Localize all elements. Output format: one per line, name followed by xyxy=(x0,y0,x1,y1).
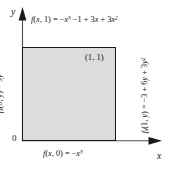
boundary-label-left: fx(0, y) = 3y2 xyxy=(0,72,4,114)
y-axis-arrowhead-icon xyxy=(19,7,27,21)
origin-label: 0 xyxy=(12,134,17,143)
boundary-label-right: fx(1, y) = −3 + 6y + 3y2 xyxy=(141,57,150,133)
x-axis-label: x xyxy=(157,152,161,162)
x-axis-arrowhead-icon xyxy=(149,137,163,145)
y-axis-label: y xyxy=(11,8,15,18)
boundary-label-top: f(x, 1) = −x3 −1 + 3x + 3x2 xyxy=(31,16,118,25)
corner-point-label: (1, 1) xyxy=(85,53,104,62)
math-diagram-figure: f(x, 1) = −x3 −1 + 3x + 3x2 f(x, 0) = −x… xyxy=(0,0,173,170)
boundary-label-bottom: f(x, 0) = −x3 xyxy=(43,150,83,159)
